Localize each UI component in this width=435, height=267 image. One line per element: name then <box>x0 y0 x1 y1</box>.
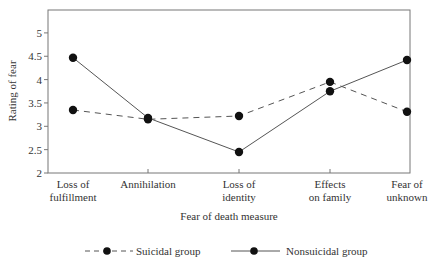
y-tick-label: 2 <box>37 167 43 179</box>
data-point <box>326 87 334 95</box>
legend-label-nonsuicidal: Nonsuicidal group <box>286 245 368 257</box>
x-category-label: Effectson family <box>309 178 352 203</box>
x-category-label: Loss offulfillment <box>49 178 96 203</box>
data-point <box>69 54 77 62</box>
y-tick-label: 4.5 <box>28 50 42 62</box>
y-tick-label: 4 <box>37 74 43 86</box>
nonsuicidal-line <box>73 58 407 152</box>
legend-label-suicidal: Suicidal group <box>136 245 201 257</box>
x-category-label: Loss ofidentity <box>222 178 256 203</box>
x-axis: Loss offulfillmentAnnihilationLoss ofide… <box>49 169 427 203</box>
data-series <box>69 54 411 157</box>
x-category-label: Annihilation <box>120 178 176 190</box>
y-tick-label: 2.5 <box>28 144 42 156</box>
x-axis-title: Fear of death measure <box>180 210 278 222</box>
data-point <box>144 114 152 122</box>
y-tick-label: 3 <box>37 120 43 132</box>
y-tick-label: 5 <box>37 27 43 39</box>
x-category-label: Fear ofunknown <box>387 178 428 203</box>
legend: Suicidal groupNonsuicidal group <box>85 245 368 257</box>
legend-marker-icon <box>103 247 111 255</box>
legend-marker-icon <box>250 247 258 255</box>
data-point <box>69 106 77 114</box>
data-point <box>403 108 411 116</box>
data-point <box>326 78 334 86</box>
data-point <box>235 112 243 120</box>
data-point <box>235 148 243 156</box>
y-axis-title: Rating of fear <box>6 60 18 121</box>
line-chart: 22.533.544.55 Rating of fear Loss offulf… <box>0 0 435 267</box>
y-axis: 22.533.544.55 <box>28 27 48 179</box>
data-point <box>403 56 411 64</box>
y-tick-label: 3.5 <box>28 97 42 109</box>
